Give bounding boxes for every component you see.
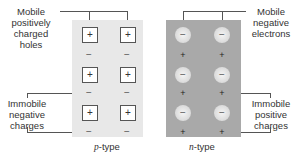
electron-icon: − — [175, 67, 191, 83]
leader-line — [27, 127, 28, 132]
electron-icon: − — [214, 105, 230, 121]
electron-icon: − — [214, 67, 230, 83]
caption-rest: -type — [99, 141, 120, 152]
label-mobile-holes: Mobile positively charged holes — [2, 6, 60, 50]
leader-line — [270, 93, 271, 98]
hole-icon: + — [82, 105, 98, 121]
negative-ion-icon: − — [84, 127, 94, 137]
label-line: positively — [2, 17, 60, 28]
negative-ion-icon: − — [122, 50, 132, 60]
leader-line — [183, 11, 246, 12]
p-type-caption: p-type — [94, 141, 120, 152]
label-line: negative — [246, 17, 295, 28]
leader-line — [60, 11, 127, 12]
hole-icon: + — [120, 67, 136, 83]
electron-icon: − — [214, 27, 230, 43]
positive-ion-icon: + — [178, 88, 188, 98]
label-line: holes — [2, 39, 60, 50]
label-line: Mobile — [2, 6, 60, 17]
n-type-caption: n-type — [189, 141, 215, 152]
label-line: charged — [2, 28, 60, 39]
hole-icon: + — [120, 105, 136, 121]
label-line: Immobile — [2, 98, 52, 109]
label-line: Immobile — [246, 98, 295, 109]
hole-icon: + — [82, 67, 98, 83]
label-line: electrons — [246, 28, 295, 39]
hole-icon: + — [120, 27, 136, 43]
hole-icon: + — [82, 27, 98, 43]
electron-icon: − — [175, 27, 191, 43]
positive-ion-icon: + — [217, 88, 227, 98]
positive-ion-icon: + — [217, 127, 227, 137]
label-mobile-electrons: Mobile negative electrons — [246, 6, 295, 39]
caption-rest: -type — [194, 141, 215, 152]
negative-ion-icon: − — [122, 127, 132, 137]
positive-ion-icon: + — [178, 50, 188, 60]
electron-icon: − — [175, 105, 191, 121]
negative-ion-icon: − — [84, 88, 94, 98]
leader-line — [270, 127, 271, 132]
label-line: positive — [246, 109, 295, 120]
label-line: Mobile — [246, 6, 295, 17]
leader-line — [27, 93, 28, 98]
negative-ion-icon: − — [84, 50, 94, 60]
negative-ion-icon: − — [122, 88, 132, 98]
label-line: negative — [2, 109, 52, 120]
positive-ion-icon: + — [178, 127, 188, 137]
positive-ion-icon: + — [217, 50, 227, 60]
